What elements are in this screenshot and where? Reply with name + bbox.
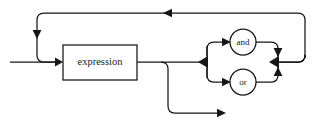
loop-back-join-curve [37,45,55,62]
expression-label: expression [78,56,124,67]
and-node: and [230,29,256,55]
branch-split-triangle-icon [198,56,208,68]
exit-rail [161,62,226,117]
and-label: and [237,37,250,47]
branch-merge-corner [278,55,305,62]
or-label: or [239,77,247,87]
entry-arrowhead-icon [55,58,63,67]
or-branch-in-curve [207,68,223,82]
expression-node: expression [63,45,137,80]
railroad-diagram-canvas: expression and [0,0,321,132]
loop-back-left-arrowhead-icon [163,9,172,17]
and-branch-in-curve [207,42,223,56]
branch-merge-triangle-icon [269,56,279,68]
exit-arrowhead-icon [217,109,226,117]
entry-rail [10,58,63,67]
or-node: or [230,69,256,95]
railroad-diagram: expression and [0,0,321,132]
loop-back-down-arrowhead-icon [33,30,42,39]
branch-merge-marker [269,50,305,74]
exit-rail-line [161,62,218,113]
